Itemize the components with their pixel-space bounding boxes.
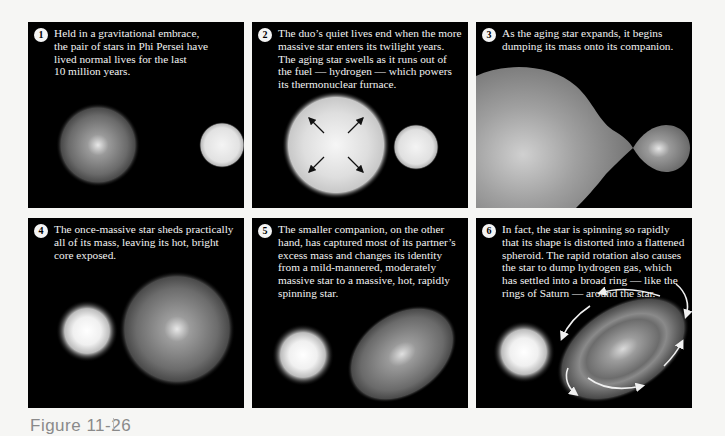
companion-star xyxy=(199,122,244,168)
panel-5: 5 The smaller companion, on the other ha… xyxy=(252,218,468,408)
evolved-primary-star xyxy=(56,103,140,187)
panel-1: 1 Held in a gravitational embrace, the p… xyxy=(28,22,244,208)
panel-4: 4 The once-massive star sheds practicall… xyxy=(28,218,244,408)
swelling-giant-star xyxy=(282,91,390,199)
panel-6: 6 In fact, the star is spinning so rapid… xyxy=(476,218,692,408)
companion-star xyxy=(393,124,439,170)
roche-lobe-overflowing-giant xyxy=(476,67,633,208)
exposed-hot-core-star xyxy=(56,300,118,362)
companion-star-gaining-mass xyxy=(119,271,235,387)
step-number-badge: 2 xyxy=(258,28,272,42)
step-number-badge: 5 xyxy=(258,224,272,238)
panel-3: 3 As the aging star expands, it begins d… xyxy=(476,22,692,208)
figure-label: Figure 11-26 xyxy=(30,416,131,436)
step-number-badge: 6 xyxy=(482,224,496,238)
figure-label-divider xyxy=(113,418,114,429)
exposed-hot-core-star xyxy=(493,321,555,383)
flattened-spinning-star xyxy=(329,285,468,408)
panel-caption: The smaller companion, on the other hand… xyxy=(278,223,456,300)
panel-caption: The once-massive star sheds practically … xyxy=(54,223,233,261)
step-number-badge: 4 xyxy=(34,224,48,238)
panel-2: 2 The duo’s quiet lives end when the mor… xyxy=(252,22,468,208)
panel-caption: The duo’s quiet lives end when the more … xyxy=(278,27,462,91)
panel-caption: Held in a gravitational embrace, the pai… xyxy=(54,27,208,78)
panel-caption: In fact, the star is spinning so rapidly… xyxy=(502,223,684,300)
panel-caption: As the aging star expands, it begins dum… xyxy=(502,27,673,53)
exposed-hot-core-star xyxy=(272,324,334,386)
step-number-badge: 1 xyxy=(34,28,48,42)
companion-star-lobe xyxy=(633,125,690,172)
step-number-badge: 3 xyxy=(482,28,496,42)
